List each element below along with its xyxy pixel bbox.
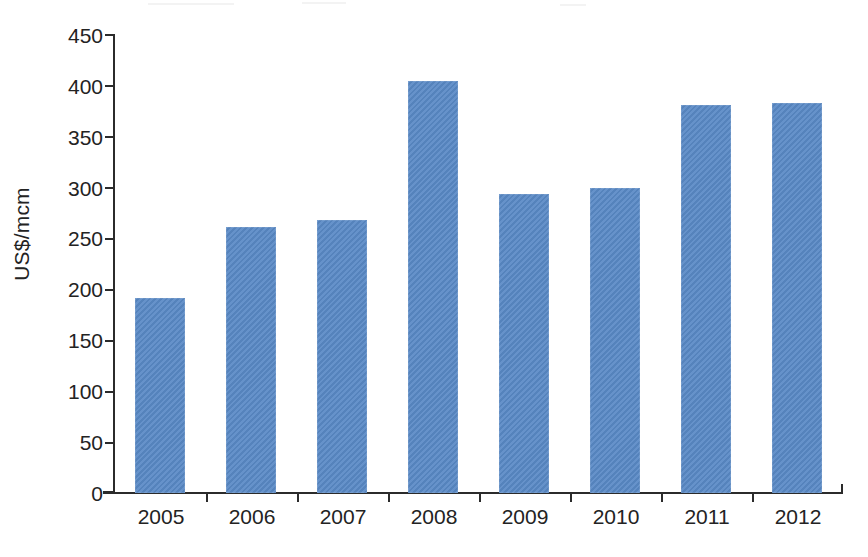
y-tick-label: 450: [41, 25, 103, 46]
bar-2011: [681, 105, 731, 493]
y-tick-label: 300: [41, 178, 103, 199]
y-axis-tick: [105, 187, 113, 189]
y-axis-tick-labels: 450 400 350 300 250 200 150 100 50 0: [35, 0, 103, 557]
bar-chart: US$/mcm 450 400 350 300 250 200 150 100 …: [0, 0, 868, 557]
y-axis-line: [113, 34, 115, 494]
x-axis-tick: [388, 493, 390, 502]
y-axis-tick: [105, 85, 113, 87]
scan-artifact: [148, 3, 234, 5]
y-axis-tick: [105, 136, 113, 138]
y-axis-tick: [105, 340, 113, 342]
x-tick-label-2007: 2007: [296, 505, 390, 529]
x-tick-label-2008: 2008: [387, 505, 481, 529]
bar-2012: [772, 103, 822, 493]
y-axis-tick: [105, 34, 113, 36]
x-axis-line: [112, 492, 843, 494]
bar-2010: [590, 188, 640, 493]
y-tick-label: 250: [41, 228, 103, 249]
bar-2008: [408, 81, 458, 493]
x-axis-right-cap: [841, 484, 843, 494]
y-tick-label: 150: [41, 330, 103, 351]
x-axis-tick: [752, 493, 754, 502]
bar-2009: [499, 194, 549, 493]
bar-2007: [317, 220, 367, 493]
x-tick-label-2005: 2005: [114, 505, 208, 529]
bar-2005: [135, 298, 185, 493]
y-axis-tick: [105, 442, 113, 444]
y-tick-label: 200: [41, 279, 103, 300]
x-tick-label-2012: 2012: [751, 505, 845, 529]
y-tick-label: 400: [41, 76, 103, 97]
y-axis-tick: [105, 238, 113, 240]
x-tick-label-2009: 2009: [478, 505, 572, 529]
scan-artifact: [302, 2, 346, 4]
x-tick-label-2010: 2010: [569, 505, 663, 529]
x-axis-tick: [479, 493, 481, 502]
x-tick-label-2006: 2006: [205, 505, 299, 529]
x-axis-tick: [661, 493, 663, 502]
x-tick-label-2011: 2011: [660, 505, 754, 529]
y-tick-label: 50: [41, 432, 103, 453]
y-axis-tick: [105, 289, 113, 291]
x-axis-tick: [570, 493, 572, 502]
bar-2006: [226, 227, 276, 493]
x-axis-tick: [297, 493, 299, 502]
y-axis-tick: [105, 391, 113, 393]
y-tick-label: 350: [41, 127, 103, 148]
scan-artifact: [560, 4, 586, 6]
y-tick-label: 0: [41, 483, 103, 504]
y-tick-label: 100: [41, 381, 103, 402]
x-axis-tick: [206, 493, 208, 502]
y-axis-label: US$/mcm: [10, 174, 34, 294]
y-axis-tick-zero: [103, 491, 114, 494]
